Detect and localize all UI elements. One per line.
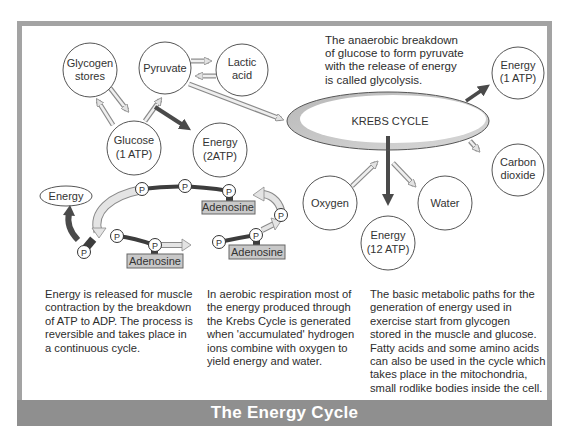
energy12-label-1: Energy (371, 229, 406, 241)
phosphate-label: P (226, 187, 232, 197)
glycogen-label-2: stores (75, 70, 105, 82)
para-line: reversible and takes place in (45, 328, 193, 341)
para-line: Fatty acids and some amino acids (370, 342, 545, 355)
note-line: is called glycolysis. (325, 74, 464, 87)
phosphate-label: P (253, 231, 259, 241)
para-line: of ATP to ADP. The process is (45, 315, 193, 328)
adenosine-label-top: Adenosine (202, 201, 254, 213)
atp-paragraph: Energy is released for muscle contractio… (45, 288, 193, 355)
co2-label-2: dioxide (501, 169, 536, 181)
para-line: the energy produced through (207, 301, 354, 314)
lactic-label-1: Lactic (228, 56, 257, 68)
phosphate-label: P (182, 182, 188, 192)
phosphate-label: P (114, 232, 120, 242)
glucose-label-2: (1 ATP) (116, 148, 152, 160)
energy1-label-2: (1 ATP) (500, 72, 536, 84)
glycogen-label-1: Glycogen (67, 57, 113, 69)
co2-label-1: Carbon (500, 156, 536, 168)
para-line: the Krebs Cycle is generated (207, 315, 354, 328)
para-line: stored in the muscle and glucose. (370, 328, 545, 341)
energy2-label-1: Energy (203, 136, 238, 148)
para-line: generation of energy used in (370, 301, 545, 314)
para-line: a continuous cycle. (45, 342, 193, 355)
glycolysis-note: The anaerobic breakdown of glucose to fo… (325, 34, 464, 87)
aerobic-paragraph: In aerobic respiration most of the energ… (207, 288, 354, 368)
energy12-label-2: (12 ATP) (367, 243, 410, 255)
metabolic-paragraph: The basic metabolic paths for the genera… (370, 288, 545, 395)
phosphate-label: P (278, 211, 284, 221)
lactic-label-2: acid (232, 69, 252, 81)
phosphate-label: P (81, 248, 87, 258)
pyruvate-label: Pyruvate (143, 62, 186, 74)
note-line: with the release of energy (325, 60, 464, 73)
atp-cycle-diagram: Energy Adenosine P P P P Adenosine P (40, 180, 288, 269)
para-line: ions combine with oxygen to (207, 342, 354, 355)
note-line: The anaerobic breakdown (325, 34, 464, 47)
krebs-to-energy1-arrow (466, 88, 485, 101)
para-line: In aerobic respiration most of (207, 288, 354, 301)
para-line: Energy is released for muscle (45, 288, 193, 301)
para-line: small rodlike bodies inside the cell. (370, 382, 545, 395)
phosphate-label: P (139, 185, 145, 195)
glucose-label-1: Glucose (114, 134, 154, 146)
adenosine-label-middle: Adenosine (129, 255, 181, 267)
note-line: of glucose to form pyruvate (325, 47, 464, 60)
phosphate-label: P (216, 238, 222, 248)
para-line: takes place in the mitochondria, (370, 368, 545, 381)
energy-release-label: Energy (49, 190, 84, 202)
oxygen-label: Oxygen (311, 197, 349, 209)
para-line: exercise start from glycogen (370, 315, 545, 328)
phosphate-label: P (152, 241, 158, 251)
water-label: Water (431, 197, 460, 209)
para-line: when 'accumulated' hydrogen (207, 328, 354, 341)
glucose-to-energy-arrow (155, 107, 186, 127)
para-line: yield energy and water. (207, 355, 354, 368)
para-line: can also be used in the cycle which (370, 355, 545, 368)
para-line: contraction by the breakdown (45, 301, 193, 314)
energy1-label-1: Energy (501, 59, 536, 71)
energy2-label-2: (2ATP) (203, 150, 237, 162)
adenosine-label-right: Adenosine (231, 246, 283, 258)
para-line: The basic metabolic paths for the (370, 288, 545, 301)
diagram-title: The Energy Cycle (211, 403, 358, 423)
krebs-label: KREBS CYCLE (351, 115, 428, 127)
title-band: The Energy Cycle (17, 400, 552, 426)
